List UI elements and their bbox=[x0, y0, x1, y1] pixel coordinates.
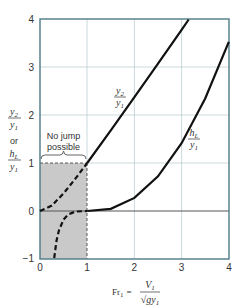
svg-text:2: 2 bbox=[132, 262, 138, 273]
curve-label-hl-y1: hL y1 bbox=[188, 127, 200, 152]
svg-text:y1: y1 bbox=[9, 161, 18, 174]
y-axis-label: y2 y1 or hL y1 bbox=[8, 106, 21, 174]
no-jump-brace bbox=[41, 151, 86, 159]
svg-text:1: 1 bbox=[28, 158, 34, 169]
svg-text:4: 4 bbox=[226, 262, 232, 273]
svg-text:V1: V1 bbox=[145, 279, 155, 292]
no-jump-label-line2: possible bbox=[47, 142, 80, 152]
x-axis-label: Fr1= V1 √gy1 bbox=[112, 279, 160, 307]
no-jump-label-line1: No jump bbox=[47, 131, 81, 141]
svg-text:or: or bbox=[10, 136, 18, 146]
svg-text:y1: y1 bbox=[189, 139, 198, 152]
svg-text:Fr1=: Fr1= bbox=[112, 287, 132, 299]
svg-text:0: 0 bbox=[28, 206, 34, 217]
y2-y1-curve bbox=[87, 20, 189, 164]
svg-text:2: 2 bbox=[28, 110, 34, 121]
svg-text:0: 0 bbox=[37, 262, 43, 273]
svg-text:3: 3 bbox=[179, 262, 185, 273]
svg-text:1: 1 bbox=[84, 262, 90, 273]
svg-text:−1: −1 bbox=[23, 253, 35, 264]
svg-text:√gy1: √gy1 bbox=[141, 294, 159, 307]
y-tick-labels: 4 3 2 1 0 −1 bbox=[23, 14, 35, 264]
svg-text:y1: y1 bbox=[9, 119, 18, 132]
curve-label-y2-y1: y2 y1 bbox=[114, 85, 126, 110]
svg-text:3: 3 bbox=[28, 62, 34, 73]
hydraulic-jump-chart: No jump possible 4 3 2 1 0 −1 0 1 2 3 4 … bbox=[0, 0, 238, 308]
svg-text:4: 4 bbox=[28, 14, 34, 25]
svg-text:y2: y2 bbox=[9, 106, 18, 119]
svg-text:hL: hL bbox=[10, 148, 19, 161]
svg-text:y1: y1 bbox=[115, 97, 124, 110]
x-tick-labels: 0 1 2 3 4 bbox=[37, 262, 232, 273]
